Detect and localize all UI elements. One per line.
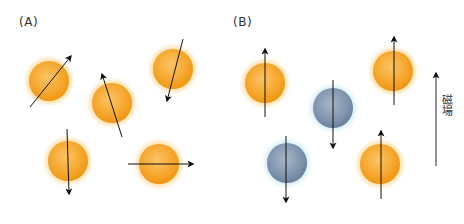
- spin-atom-a-1: [22, 54, 76, 108]
- low-energy-nucleus: [29, 61, 69, 101]
- panel-a-atoms: [22, 39, 200, 194]
- spin-atom-b-5: [353, 131, 407, 199]
- spin-atom-a-5: [128, 137, 193, 191]
- low-energy-nucleus: [360, 144, 400, 184]
- spin-atom-b-4: [260, 136, 314, 202]
- spin-atom-a-2: [85, 74, 139, 137]
- low-energy-nucleus: [153, 49, 193, 89]
- panel-b-atoms: [238, 37, 420, 202]
- low-energy-nucleus: [92, 83, 132, 123]
- high-energy-nucleus: [267, 143, 307, 183]
- spin-atom-b-3: [366, 37, 420, 105]
- spin-atom-a-4: [41, 129, 95, 194]
- spin-diagram: [0, 0, 464, 224]
- magnetic-field-label: 磁場: [441, 94, 452, 116]
- spin-atom-b-1: [238, 49, 292, 117]
- spin-atom-a-3: [146, 39, 200, 101]
- spin-atom-b-2: [306, 80, 360, 148]
- low-energy-nucleus: [373, 51, 413, 91]
